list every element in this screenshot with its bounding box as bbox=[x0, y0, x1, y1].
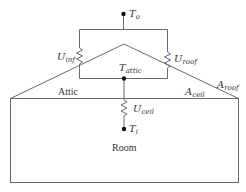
attic-thermal-diagram bbox=[0, 0, 246, 192]
subscript: roof bbox=[182, 58, 196, 66]
subscript: roof bbox=[224, 84, 238, 92]
room-outline bbox=[11, 99, 239, 183]
subscript: attic bbox=[126, 67, 142, 75]
indoor-node bbox=[122, 127, 126, 131]
symbol: T bbox=[129, 123, 136, 134]
subscript: i bbox=[136, 128, 138, 136]
roof-area-label: Aroof bbox=[217, 80, 239, 92]
attic-temp-label: Tattic bbox=[119, 63, 142, 75]
attic-node bbox=[122, 76, 126, 80]
indoor-temp-label: Ti bbox=[129, 124, 138, 136]
ceiling-resistor bbox=[121, 79, 127, 130]
subscript: ceil bbox=[192, 91, 205, 99]
outdoor-temp-label: To bbox=[129, 9, 140, 21]
symbol: T bbox=[129, 8, 136, 19]
ceiling-area-label: Aceil bbox=[185, 87, 205, 99]
infiltration-resistor bbox=[77, 30, 83, 79]
attic-zone-label: Attic bbox=[58, 87, 78, 97]
outdoor-node bbox=[121, 12, 125, 16]
roof-resistor bbox=[165, 30, 171, 79]
subscript: ceil bbox=[141, 108, 154, 116]
ceiling-u-label: Uceil bbox=[133, 104, 154, 116]
room-zone-label: Room bbox=[112, 143, 136, 153]
subscript: inf bbox=[65, 56, 74, 64]
roof-u-label: Uroof bbox=[174, 54, 197, 66]
symbol: T bbox=[119, 62, 126, 73]
infiltration-u-label: Uinf bbox=[57, 52, 75, 64]
subscript: o bbox=[136, 13, 140, 21]
